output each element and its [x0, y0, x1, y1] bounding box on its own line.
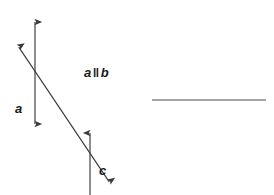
parallel-statement-right: b — [101, 65, 109, 80]
label-line-c: c — [99, 164, 106, 177]
diagram-svg — [0, 0, 274, 195]
parallel-symbol-icon: ‖ — [92, 65, 101, 80]
geometry-figure-canvas: a c a‖b — [0, 0, 274, 195]
parallel-statement: a‖b — [84, 66, 109, 79]
label-line-a: a — [15, 102, 22, 115]
parallel-statement-left: a — [84, 65, 92, 80]
